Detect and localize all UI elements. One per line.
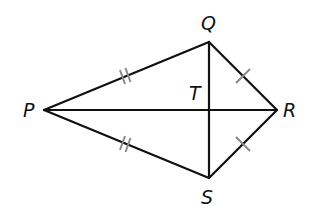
vertex-label-s: S — [201, 186, 213, 208]
intersection-label-t: T — [189, 82, 202, 104]
kite-diagram: P Q R S T — [0, 0, 319, 220]
vertex-label-r: R — [283, 99, 296, 121]
vertex-label-q: Q — [201, 12, 216, 34]
segment-pq — [44, 42, 209, 110]
segment-ps — [44, 110, 209, 178]
vertex-label-p: P — [23, 99, 35, 121]
